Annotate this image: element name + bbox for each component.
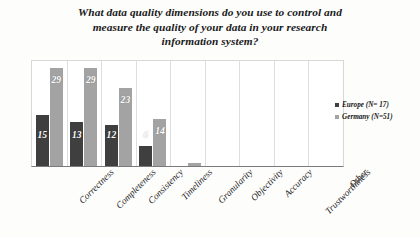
bar-group — [274, 61, 309, 166]
bar[interactable]: 15 — [36, 115, 49, 166]
bar-value-label: 29 — [86, 74, 96, 85]
bar[interactable]: 14 — [153, 119, 166, 166]
bar-value-label: 12 — [107, 129, 117, 140]
chart-title: What data quality dimensions do you use … — [42, 5, 378, 49]
chart-legend: Europe (N= 17)Germany (N=51) — [335, 101, 419, 125]
legend-swatch-icon — [335, 115, 339, 119]
x-tick-label: Granularity — [216, 167, 254, 205]
bar-value-label: 13 — [72, 129, 82, 140]
x-tick-label: Timeliness — [179, 167, 214, 202]
bar[interactable] — [188, 163, 201, 166]
bar[interactable]: 23 — [119, 88, 132, 166]
bar-value-label: 6 — [144, 129, 149, 140]
legend-label: Europe (N= 17) — [342, 101, 389, 109]
bar-group: 614 — [136, 61, 171, 166]
x-tick-label: Correctness — [77, 167, 116, 206]
bar-value-label: 15 — [37, 129, 47, 140]
bar-value-label: 23 — [121, 94, 131, 105]
bar-value-label: 14 — [155, 125, 165, 136]
chart-title-line-1: What data quality dimensions do you use … — [78, 6, 342, 18]
bar-value-label: 29 — [51, 74, 61, 85]
legend-label: Germany (N=51) — [342, 113, 393, 121]
bar-group: 1223 — [101, 61, 136, 166]
bar-group — [205, 61, 240, 166]
x-tick-label: Objectivity — [249, 167, 285, 203]
bar[interactable]: 29 — [84, 68, 97, 166]
bar-group: 1329 — [67, 61, 102, 166]
chart-title-line-2: measure the quality of your data in your… — [93, 21, 328, 33]
bars-layer: 152913291223614 — [32, 61, 343, 166]
legend-swatch-icon — [335, 103, 339, 107]
bar[interactable]: 29 — [50, 68, 63, 166]
bar[interactable]: 13 — [70, 122, 83, 166]
bar[interactable]: 6 — [139, 146, 152, 166]
x-tick-label: Accuracy — [282, 167, 314, 199]
bar[interactable]: 12 — [105, 125, 118, 166]
plot-area: 152913291223614 — [31, 60, 344, 167]
x-axis-tick-labels: CorrectnessCompletenessConsistencyTimeli… — [31, 167, 344, 237]
legend-item[interactable]: Germany (N=51) — [335, 113, 419, 121]
bar-group — [239, 61, 274, 166]
chart-title-line-3: information system? — [162, 35, 259, 47]
bar-group — [170, 61, 205, 166]
chart-screenshot: What data quality dimensions do you use … — [0, 0, 420, 237]
bar-group: 1529 — [32, 61, 67, 166]
legend-item[interactable]: Europe (N= 17) — [335, 101, 419, 109]
